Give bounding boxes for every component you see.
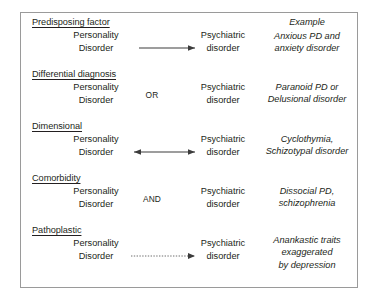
example-line-1: Cyclothymia,: [259, 133, 355, 145]
example-column: Dissocial PD, schizophrenia: [259, 185, 355, 210]
psychiatric-disorder-line-2: disorder: [183, 42, 263, 55]
example-line-1: Anxious PD and: [259, 30, 355, 42]
section-heading: Comorbidity: [32, 173, 80, 184]
diagram-section-comorbidity: Comorbidity Personality Disorder AND Psy…: [21, 171, 357, 223]
example-line-3: by depression: [259, 259, 355, 271]
psychiatric-disorder-line-1: Psychiatric: [183, 81, 263, 94]
example-column-header: Example: [259, 16, 355, 28]
example-line-2: anxiety disorder: [259, 42, 355, 54]
example-line-1: Paranoid PD or: [259, 81, 355, 93]
diagram-frame: Predisposing factor Personality Disorder…: [20, 12, 358, 288]
example-column: Example Anxious PD and anxiety disorder: [259, 16, 355, 55]
example-line-1: Anankastic traits: [259, 234, 355, 246]
psychiatric-disorder-line-1: Psychiatric: [183, 29, 263, 42]
example-line-2: Delusional disorder: [259, 93, 355, 105]
psychiatric-disorder-column: Psychiatric disorder: [183, 237, 263, 262]
psychiatric-disorder-column: Psychiatric disorder: [183, 133, 263, 158]
psychiatric-disorder-column: Psychiatric disorder: [183, 29, 263, 54]
example-column: Cyclothymia, Schizotypal disorder: [259, 133, 355, 158]
psychiatric-disorder-line-1: Psychiatric: [183, 185, 263, 198]
psychiatric-disorder-column: Psychiatric disorder: [183, 185, 263, 210]
psychiatric-disorder-column: Psychiatric disorder: [183, 81, 263, 106]
psychiatric-disorder-line-2: disorder: [183, 198, 263, 211]
diagram-section-predisposing-factor: Predisposing factor Personality Disorder…: [21, 15, 357, 67]
psychiatric-disorder-line-2: disorder: [183, 250, 263, 263]
example-line-2: Schizotypal disorder: [259, 145, 355, 157]
example-column: Paranoid PD or Delusional disorder: [259, 81, 355, 106]
section-heading: Differential diagnosis: [32, 69, 116, 80]
example-line-1: Dissocial PD,: [259, 185, 355, 197]
diagram-section-differential-diagnosis: Differential diagnosis Personality Disor…: [21, 67, 357, 119]
psychiatric-disorder-line-1: Psychiatric: [183, 237, 263, 250]
psychiatric-disorder-line-2: disorder: [183, 146, 263, 159]
section-heading: Predisposing factor: [32, 17, 110, 28]
diagram-section-pathoplastic: Pathoplastic Personality Disorder Psychi…: [21, 223, 357, 275]
section-heading: Dimensional: [32, 121, 82, 132]
diagram-section-dimensional: Dimensional Personality Disorder Psychia…: [21, 119, 357, 171]
example-column: Anankastic traits exaggerated by depress…: [259, 234, 355, 271]
section-heading: Pathoplastic: [32, 225, 81, 236]
psychiatric-disorder-line-1: Psychiatric: [183, 133, 263, 146]
example-line-2: schizophrenia: [259, 197, 355, 209]
example-line-2: exaggerated: [259, 246, 355, 258]
psychiatric-disorder-line-2: disorder: [183, 94, 263, 107]
